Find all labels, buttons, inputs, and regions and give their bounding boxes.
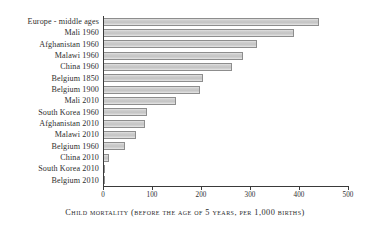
category-label: Afghanistan 1960 [0,39,99,50]
category-label: Afghanistan 2010 [0,118,99,129]
category-label: Belgium 2010 [0,175,99,186]
bar-row [103,84,348,95]
bar-row [103,73,348,84]
chart-caption: Child mortality (before the age of 5 yea… [0,208,370,217]
x-axis-tick-label: 0 [101,191,105,199]
bar-rows [103,16,348,186]
category-label: Malawi 1960 [0,50,99,61]
bar-row [103,50,348,61]
category-label: China 2010 [0,152,99,163]
bar [103,131,136,139]
child-mortality-bar-chart: Europe - middle agesMali 1960Afghanistan… [0,0,370,232]
bar-row [103,39,348,50]
bar [103,63,232,71]
category-label: Malawi 2010 [0,129,99,140]
plot-area [103,16,348,186]
bar-row [103,129,348,140]
bar [103,97,176,105]
bar [103,18,319,26]
bar [103,86,200,94]
bar [103,74,203,82]
bar [103,142,125,150]
x-axis-tick-label: 300 [245,191,256,199]
bar-row [103,16,348,27]
bar [103,40,257,48]
bar-row [103,141,348,152]
category-label: South Korea 2010 [0,163,99,174]
category-label: Europe - middle ages [0,16,99,27]
category-label: Belgium 1850 [0,73,99,84]
x-axis-line [103,186,349,187]
bar [103,29,294,37]
y-axis-line [103,16,104,186]
category-label: Mali 2010 [0,95,99,106]
bar [103,120,145,128]
x-axis-tick-label: 200 [196,191,207,199]
x-axis-tick-label: 100 [147,191,158,199]
bar-row [103,152,348,163]
x-axis-tick-label: 400 [294,191,305,199]
x-axis-tick [201,186,202,190]
bar-row [103,95,348,106]
category-label: Mali 1960 [0,27,99,38]
category-label: Belgium 1900 [0,84,99,95]
x-axis-tick [152,186,153,190]
bar [103,52,243,60]
category-label: China 1960 [0,61,99,72]
bar-row [103,163,348,174]
x-axis-tick [103,186,104,190]
bar-row [103,175,348,186]
x-axis-tick [250,186,251,190]
bar-row [103,27,348,38]
x-axis-tick [299,186,300,190]
category-label: Belgium 1960 [0,141,99,152]
x-axis-tick-label: 500 [343,191,354,199]
bar-row [103,61,348,72]
bar-row [103,107,348,118]
x-axis-tick [348,186,349,190]
category-label: South Korea 1960 [0,107,99,118]
bar [103,108,147,116]
bar-row [103,118,348,129]
category-axis-labels: Europe - middle agesMali 1960Afghanistan… [0,16,99,186]
